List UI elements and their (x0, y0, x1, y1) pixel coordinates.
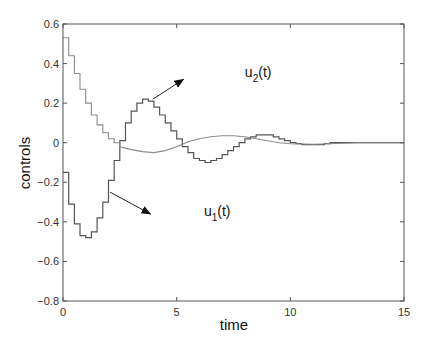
y-tick-label: 0.2 (44, 97, 59, 109)
y-tick-label: −0.4 (37, 216, 59, 228)
x-axis-label: time (220, 316, 248, 333)
x-tick-label: 15 (398, 306, 410, 318)
y-tick-label: 0 (53, 137, 59, 149)
axes: 0510150.60.40.20−0.2−0.4−0.6−0.8 (37, 18, 410, 318)
x-tick-label: 10 (284, 306, 296, 318)
y-tick-label: −0.2 (37, 176, 59, 188)
annotations: u2(t)u1(t) (110, 64, 271, 223)
y-axis-label: controls (16, 137, 33, 190)
annotation-label-u2t: u2(t) (245, 64, 272, 84)
controls-chart: u2(t)u1(t) 0510150.60.40.20−0.2−0.4−0.6−… (0, 0, 432, 347)
annotation-arrow-u1t (110, 192, 150, 214)
x-tick-label: 5 (174, 306, 180, 318)
y-tick-label: −0.8 (37, 295, 59, 307)
series-decaying-control (63, 38, 404, 153)
y-tick-label: 0.4 (44, 58, 59, 70)
series-layer (63, 38, 404, 238)
y-tick-label: 0.6 (44, 18, 59, 30)
annotation-arrow-u2t (153, 79, 184, 99)
series-step-control (63, 99, 404, 238)
annotation-label-u1t: u1(t) (204, 203, 231, 223)
y-tick-label: −0.6 (37, 255, 59, 267)
x-tick-label: 0 (60, 306, 66, 318)
